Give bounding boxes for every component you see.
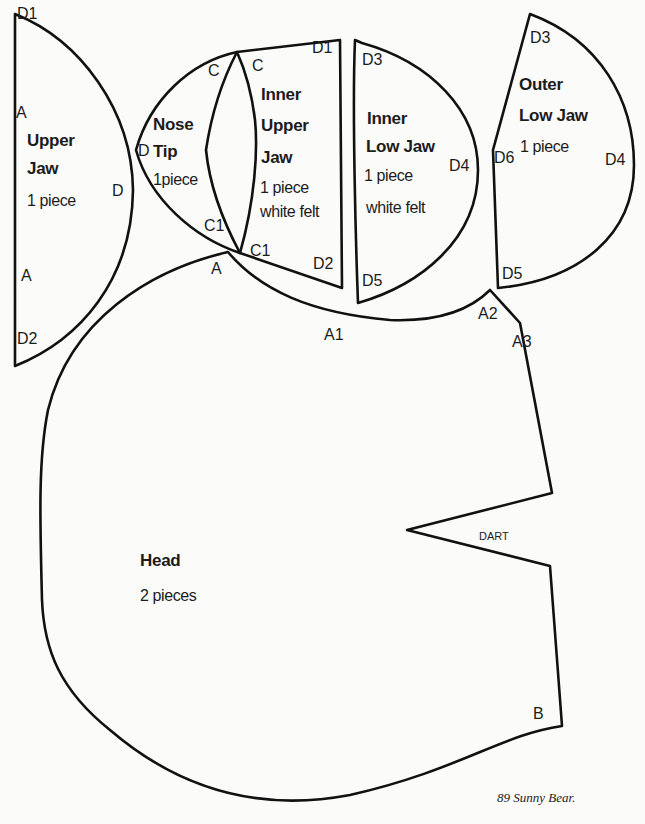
inner-upper-jaw-point-c: C — [252, 58, 264, 74]
upper-jaw-point-a-bottom: A — [21, 268, 32, 284]
nose-tip-count: 1piece — [153, 172, 198, 188]
upper-jaw-point-d2: D2 — [17, 331, 37, 347]
upper-jaw-point-d1: D1 — [17, 6, 37, 22]
nose-tip-point-c1: C1 — [204, 218, 224, 234]
nose-tip-title-line2: Tip — [153, 143, 177, 160]
figure-caption: 89 Sunny Bear. — [497, 790, 575, 806]
inner-upper-jaw-title-line1: Inner — [261, 86, 301, 103]
upper-jaw-count: 1 piece — [27, 193, 76, 209]
head-point-a: A — [211, 261, 222, 277]
head-count: 2 pieces — [140, 588, 196, 604]
outer-low-jaw-count: 1 piece — [520, 139, 569, 155]
upper-jaw-title-line1: Upper — [27, 132, 75, 149]
head-title: Head — [140, 552, 180, 569]
inner-low-jaw-count: 1 piece — [364, 168, 413, 184]
inner-upper-jaw-material: white felt — [260, 204, 319, 220]
inner-low-jaw-material: white felt — [366, 200, 425, 216]
upper-jaw-point-a-top: A — [16, 105, 27, 121]
inner-upper-jaw-point-c1: C1 — [250, 243, 270, 259]
nose-tip-title-line1: Nose — [153, 116, 193, 133]
inner-low-jaw-point-d3: D3 — [362, 52, 382, 68]
inner-low-jaw-title-line2: Low Jaw — [366, 138, 435, 155]
head-point-b: B — [533, 706, 544, 722]
outer-low-jaw-title-line1: Outer — [519, 76, 563, 93]
nose-tip-point-c: C — [208, 63, 220, 79]
inner-low-jaw-point-d5: D5 — [362, 273, 382, 289]
inner-upper-jaw-title-line3: Jaw — [261, 149, 292, 166]
outer-low-jaw-point-d5: D5 — [502, 266, 522, 282]
upper-jaw-point-d: D — [112, 183, 124, 199]
inner-upper-jaw-point-d1: D1 — [312, 40, 332, 56]
inner-upper-jaw-count: 1 piece — [260, 180, 309, 196]
inner-low-jaw-point-d4: D4 — [449, 158, 469, 174]
head-point-a1: A1 — [324, 327, 344, 343]
upper-jaw-title-line2: Jaw — [27, 160, 58, 177]
outer-low-jaw-title-line2: Low Jaw — [519, 107, 588, 124]
inner-low-jaw-title-line1: Inner — [367, 110, 407, 127]
head-point-a2: A2 — [478, 306, 498, 322]
head-point-a3: A3 — [512, 334, 532, 350]
outer-low-jaw-point-d6: D6 — [494, 150, 514, 166]
inner-upper-jaw-title-line2: Upper — [261, 117, 309, 134]
head-outline — [40, 252, 562, 801]
head-dart-label: DART — [479, 531, 509, 542]
inner-upper-jaw-point-d2: D2 — [313, 256, 333, 272]
outer-low-jaw-point-d3: D3 — [530, 30, 550, 46]
outer-low-jaw-point-d4: D4 — [605, 152, 625, 168]
nose-tip-point-d: D — [138, 143, 150, 159]
